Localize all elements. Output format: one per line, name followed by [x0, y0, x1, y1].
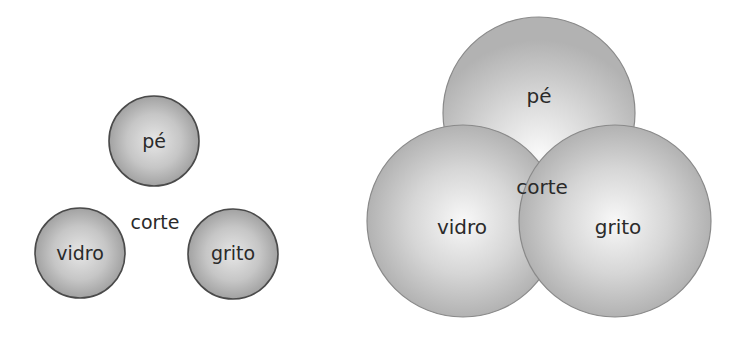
circle-vidro-small: vidro	[35, 208, 125, 298]
label-vidro: vidro	[437, 215, 487, 239]
label-pe: pé	[142, 130, 166, 152]
circle-pe-small: pé	[109, 96, 199, 186]
center-label-corte-left: corte	[130, 211, 179, 233]
circle-grito-small: grito	[188, 209, 278, 299]
label-grito: grito	[595, 215, 642, 239]
center-label-corte-right: corte	[516, 175, 568, 199]
circle-grito-big: grito	[519, 125, 711, 317]
word-association-diagram: pé vidro grito corte pé vidro grito cort…	[0, 0, 752, 341]
label-vidro: vidro	[56, 242, 104, 264]
overlapping-circles-group: pé vidro grito corte	[367, 17, 711, 317]
separate-circles-group: pé vidro grito corte	[35, 96, 278, 299]
label-grito: grito	[211, 242, 255, 264]
label-pe: pé	[527, 84, 552, 108]
